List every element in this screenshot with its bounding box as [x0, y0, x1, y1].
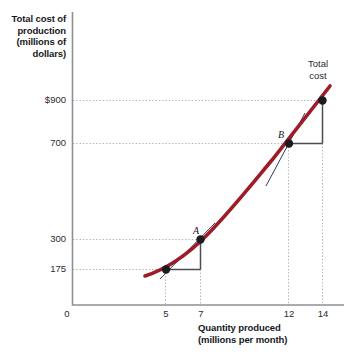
y-tick-label-900: $900	[18, 94, 66, 105]
total-cost-curve	[145, 86, 330, 276]
x-tick-label-5: 5	[156, 308, 176, 319]
y-tick-label-700: 700	[18, 137, 66, 148]
y-tick-label-300: 300	[18, 233, 66, 244]
chart-figure: Total cost of production (millions of do…	[0, 0, 345, 354]
x-tick-label-0: 0	[57, 308, 77, 319]
curve-label-line-2: cost	[296, 70, 340, 82]
data-point-14-900	[318, 96, 326, 104]
slope-triangle-b	[289, 101, 323, 144]
x-tick-label-7: 7	[191, 308, 211, 319]
data-point-a	[196, 235, 204, 243]
point-label-b: B	[278, 129, 284, 140]
data-point-5-175	[162, 265, 170, 273]
point-label-a: A	[193, 225, 199, 236]
x-tick-label-12: 12	[279, 308, 299, 319]
y-tick-label-175: 175	[18, 263, 66, 274]
plot-area	[0, 0, 345, 354]
curve-label-total-cost: Total cost	[296, 58, 340, 81]
vertical-guides	[166, 101, 323, 306]
data-point-b	[285, 139, 293, 147]
curve-label-line-1: Total	[296, 58, 340, 70]
x-tick-label-14: 14	[313, 308, 333, 319]
